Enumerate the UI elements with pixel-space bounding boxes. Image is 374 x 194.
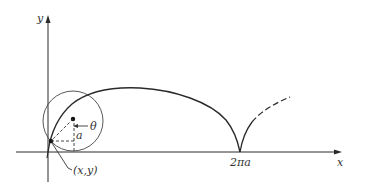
point-label: (x,y) <box>73 164 98 177</box>
cycloid-diagram: y x θ a (x,y) 2πa <box>0 0 374 194</box>
cusp-label: 2πa <box>229 156 251 169</box>
x-axis-label: x <box>337 156 344 169</box>
cycloid-next-arch-dashed <box>252 97 290 122</box>
cycloid-next-arch-solid <box>240 122 252 152</box>
radius-label: a <box>76 129 83 142</box>
cycloid-arch <box>48 88 240 152</box>
point-leader-line <box>52 143 72 170</box>
y-axis-arrow-icon <box>46 15 51 23</box>
x-axis-arrow-icon <box>334 150 342 155</box>
theta-label: θ <box>90 120 97 133</box>
y-axis-label: y <box>36 12 44 25</box>
